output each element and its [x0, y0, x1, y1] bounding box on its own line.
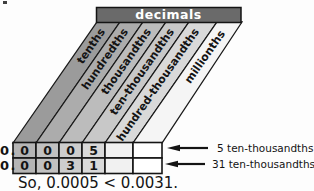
row1-annotation: 5 ten-thousandths [217, 142, 313, 154]
table-cell-r2c5 [105, 158, 133, 174]
digit-r1c3: 0 [66, 143, 75, 158]
place-value-diagram: tenths hundredths thousandths ten-thousa… [0, 0, 314, 191]
conclusion-text: So, 0.0005 < 0.0031. [18, 174, 178, 191]
row2-annotation: 31 ten-thousandths [212, 158, 314, 170]
table-cell-r2c6 [133, 158, 162, 174]
row2-ones-prefix: 0. [0, 158, 17, 173]
digit-r2c1: 0 [20, 158, 29, 173]
digit-r2c4: 1 [89, 158, 98, 173]
digit-r2c3: 3 [66, 158, 75, 173]
scan-artifact [3, 1, 7, 4]
digit-r1c2: 0 [43, 143, 52, 158]
table-cell-r1c6 [133, 143, 162, 159]
diagram-canvas: tenths hundredths thousandths ten-thousa… [0, 0, 314, 191]
table-cell-r1c5 [105, 143, 133, 159]
digit-r2c2: 0 [43, 158, 52, 173]
row1-ones-prefix: 0. [0, 143, 17, 158]
place-value-table: 0. 0. 0 0 0 5 0 0 3 1 [0, 143, 162, 174]
digit-r1c1: 0 [20, 143, 29, 158]
decimals-header-title: decimals [135, 7, 201, 22]
decimals-header: decimals [97, 7, 242, 23]
digit-r1c4: 5 [89, 143, 98, 158]
